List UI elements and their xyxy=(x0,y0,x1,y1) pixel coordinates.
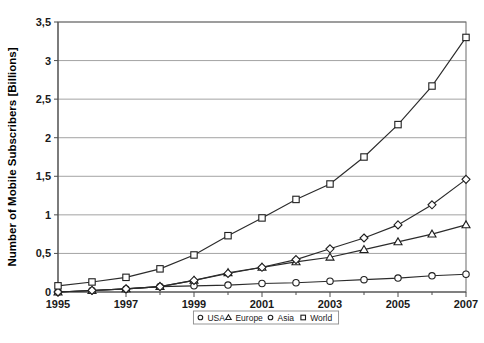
legend-label-usa: USA xyxy=(207,313,225,323)
marker-world-1996 xyxy=(89,279,95,285)
legend-label-europe: Europe xyxy=(235,313,263,323)
y-axis-title: Number of Mobile Subscribers [Billions] xyxy=(6,47,18,266)
x-tick-labels-group: 1995199719992001200320052007 xyxy=(46,292,478,310)
y-tick-labels-group: 00,511,522,533,5 xyxy=(36,16,58,298)
legend-label-world: World xyxy=(310,313,332,323)
marker-world-1998 xyxy=(157,266,163,272)
y-axis-title-group: Number of Mobile Subscribers [Billions] xyxy=(6,47,18,266)
legend-marker-circle-usa xyxy=(198,315,203,320)
x-tick-label-2: 1999 xyxy=(182,298,206,310)
y-tick-label-0: 0 xyxy=(45,286,51,298)
marker-world-2007 xyxy=(463,34,469,40)
series-line-asia xyxy=(58,179,466,292)
marker-asia-2000 xyxy=(224,269,232,277)
plot-area-border xyxy=(58,22,466,292)
marker-asia-2004 xyxy=(360,234,368,242)
y-tick-label-1: 0,5 xyxy=(36,247,51,259)
marker-world-2002 xyxy=(293,196,299,202)
legend-group: USAEuropeAsiaWorld xyxy=(193,311,338,324)
marker-europe-2007 xyxy=(462,221,470,228)
mobile-subscribers-chart: 00,511,522,533,5 19951997199920012003200… xyxy=(0,0,484,343)
legend-marker-circle-asia xyxy=(268,315,273,320)
x-tick-label-3: 2001 xyxy=(250,298,274,310)
y-tick-label-3: 1,5 xyxy=(36,170,51,182)
marker-world-2004 xyxy=(361,154,367,160)
series-group xyxy=(54,34,470,296)
legend-label-asia: Asia xyxy=(278,313,295,323)
marker-usa-2005 xyxy=(395,275,401,281)
marker-usa-2006 xyxy=(429,273,435,279)
y-tick-label-4: 2 xyxy=(45,132,51,144)
marker-world-2001 xyxy=(259,215,265,221)
axes-group xyxy=(58,22,466,292)
chart-canvas: 00,511,522,533,5 19951997199920012003200… xyxy=(0,0,484,343)
marker-usa-2004 xyxy=(361,276,367,282)
y-tick-label-5: 2,5 xyxy=(36,93,51,105)
marker-asia-2005 xyxy=(394,221,402,229)
marker-world-2003 xyxy=(327,181,333,187)
marker-usa-2003 xyxy=(327,278,333,284)
marker-usa-2007 xyxy=(463,271,469,277)
x-tick-label-6: 2007 xyxy=(454,298,478,310)
y-tick-label-2: 1 xyxy=(45,209,51,221)
y-tick-label-6: 3 xyxy=(45,55,51,67)
marker-usa-2000 xyxy=(225,282,231,288)
marker-world-2005 xyxy=(395,121,401,127)
x-tick-label-4: 2003 xyxy=(318,298,342,310)
marker-asia-2003 xyxy=(326,245,334,253)
marker-world-1999 xyxy=(191,252,197,258)
y-tick-label-7: 3,5 xyxy=(36,16,51,28)
marker-usa-2001 xyxy=(259,280,265,286)
marker-world-2006 xyxy=(429,83,435,89)
legend-marker-square-world xyxy=(301,315,306,320)
marker-world-2000 xyxy=(225,232,231,238)
series-line-world xyxy=(58,37,466,285)
x-tick-label-1: 1997 xyxy=(114,298,138,310)
marker-world-1995 xyxy=(55,283,61,289)
series-world xyxy=(55,34,469,289)
marker-usa-2002 xyxy=(293,280,299,286)
x-tick-label-0: 1995 xyxy=(46,298,70,310)
marker-world-1997 xyxy=(123,274,129,280)
x-tick-label-5: 2005 xyxy=(386,298,410,310)
